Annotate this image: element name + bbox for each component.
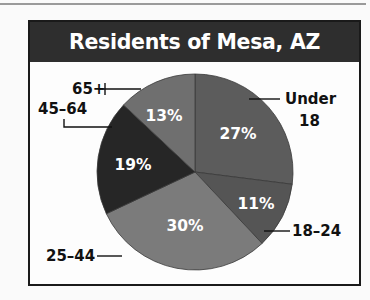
pct-under18: 27% — [219, 125, 257, 143]
label-under18-line1: Under — [285, 90, 337, 108]
label-18-24: 18–24 — [292, 222, 341, 240]
label-65plus: 65+ — [72, 80, 105, 98]
pie-chart: Under 18 18–24 25–44 45–64 65+ 27% 11% 3… — [0, 0, 370, 300]
label-25-44: 25–44 — [46, 247, 95, 265]
leader-45-64 — [64, 119, 112, 127]
pct-25-44: 30% — [166, 217, 204, 235]
label-45-64: 45–64 — [38, 100, 87, 118]
pct-65plus: 13% — [145, 107, 183, 125]
pct-18-24: 11% — [237, 195, 275, 213]
pct-45-64: 19% — [114, 156, 152, 174]
label-under18-line2: 18 — [299, 112, 320, 130]
